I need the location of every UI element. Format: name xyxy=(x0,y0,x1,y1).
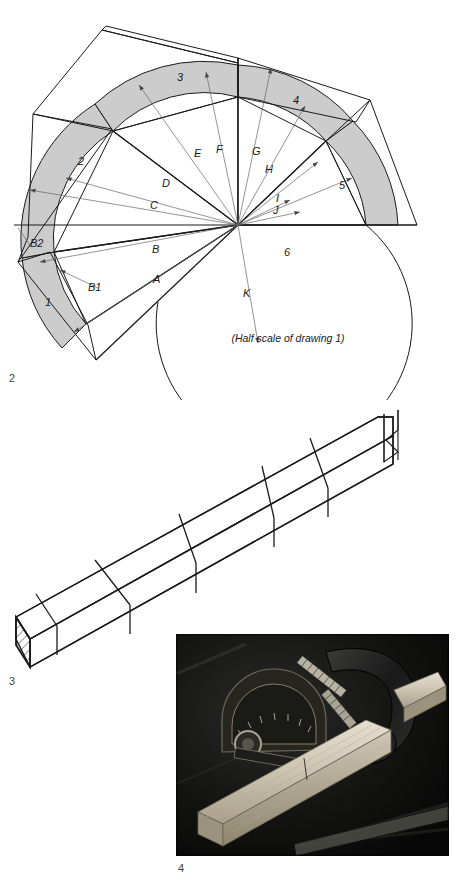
dimension-label-b1: B1 xyxy=(88,281,101,293)
figure-number-3: 3 xyxy=(9,675,15,687)
figure-2-radial-diagram: 1 2 3 4 5 6 A B B1 B2 C D E F G H I J K … xyxy=(0,0,459,400)
figure-4-photograph xyxy=(176,634,449,856)
beam-front-face xyxy=(16,436,393,667)
dimension-label-k: K xyxy=(243,287,251,299)
dimension-label-d: D xyxy=(162,177,170,189)
dimension-label-g: G xyxy=(252,145,261,157)
segment-label-4: 4 xyxy=(293,94,299,106)
segment-label-5: 5 xyxy=(339,179,346,191)
segment-label-6: 6 xyxy=(284,246,291,258)
half-scale-note: (Half scale of drawing 1) xyxy=(231,332,344,344)
segment-label-1: 1 xyxy=(45,296,51,308)
fig2-geometry: 1 2 3 4 5 6 A B B1 B2 C D E F G H I J K … xyxy=(14,26,417,400)
dimension-label-b2: B2 xyxy=(30,237,43,249)
figure-number-4: 4 xyxy=(178,862,184,874)
segment-label-3: 3 xyxy=(177,71,184,83)
dimension-label-h: H xyxy=(265,163,273,175)
beam-body xyxy=(16,417,393,667)
dimension-label-c: C xyxy=(150,199,158,211)
dimension-label-a: A xyxy=(152,273,160,285)
beam-top-face xyxy=(16,417,393,639)
figure-number-2: 2 xyxy=(9,372,15,384)
dimension-label-i: I xyxy=(276,192,279,204)
figure-3-isometric-beam xyxy=(0,390,459,670)
drawing-page: 1 2 3 4 5 6 A B B1 B2 C D E F G H I J K … xyxy=(0,0,459,881)
dimension-label-j: J xyxy=(272,204,279,216)
segment-label-2: 2 xyxy=(77,155,84,167)
dimension-label-e: E xyxy=(194,147,202,159)
dimension-label-b: B xyxy=(152,243,159,255)
